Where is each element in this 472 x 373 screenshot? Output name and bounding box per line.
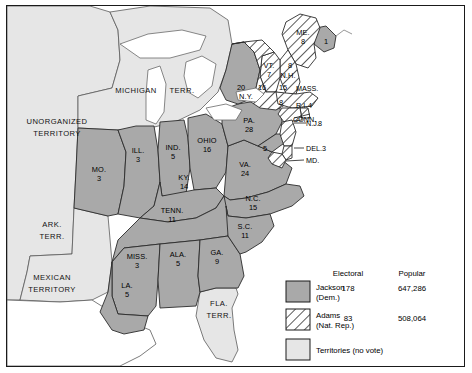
votes-indiana: 5 [171, 152, 175, 161]
coastline-detail [336, 30, 352, 36]
votes-north-carolina: 15 [249, 203, 257, 212]
label-new-hampshire: N.H. [280, 71, 295, 80]
label-indiana: IND. [165, 143, 180, 152]
legend-popular-jackson: 647,286 [398, 284, 426, 293]
label-new-jersey: N.J. [306, 119, 319, 128]
label-illinois: ILL. [132, 146, 145, 155]
label-massachusetts: MASS. [296, 84, 318, 93]
legend-swatch-jackson [286, 281, 310, 302]
label-south-carolina: S.C. [238, 222, 253, 231]
votes-georgia: 9 [215, 257, 219, 266]
votes-rhode-island: 4 [308, 101, 312, 110]
legend: Electoral Popular Jackson (Dem.) 178 647… [286, 269, 427, 360]
label-vermont: VT. [264, 61, 275, 70]
votes-new-york-jackson: 20 [237, 83, 245, 92]
votes-maine-adams: 8 [301, 37, 305, 46]
legend-swatch-adams [286, 309, 310, 330]
votes-new-jersey: 8 [318, 119, 322, 128]
label-michigan-territory-2: TERR. [169, 86, 194, 95]
label-mississippi: MISS. [127, 252, 148, 261]
label-florida-territory-2: TERR. [206, 311, 231, 320]
label-virginia: VA. [239, 160, 251, 169]
votes-pennsylvania: 28 [245, 125, 253, 134]
label-mexican-territory-1: MEXICAN [33, 273, 71, 282]
label-tennessee: TENN. [161, 206, 184, 215]
legend-label-jackson-1: Jackson [316, 283, 345, 292]
votes-missouri: 3 [97, 174, 101, 183]
votes-mississippi: 3 [135, 261, 139, 270]
votes-alabama: 5 [176, 259, 180, 268]
legend-label-adams-1: Adams [316, 311, 340, 320]
legend-header-popular: Popular [399, 269, 426, 278]
label-rhode-island-line: R.I. [296, 101, 307, 110]
votes-tennessee: 11 [168, 215, 176, 224]
label-ohio: OHIO [197, 136, 216, 145]
votes-massachusetts: 15 [279, 83, 287, 92]
votes-maryland: 5 [263, 144, 267, 153]
map-canvas: MO. 3 ILL. 3 IND. 5 OHIO 16 KY. 14 TENN.… [0, 0, 472, 373]
votes-ohio: 16 [203, 145, 211, 154]
votes-maine-jackson: 1 [324, 37, 328, 46]
label-north-carolina: N.C. [245, 194, 260, 203]
votes-new-york-adams: 16 [258, 83, 266, 92]
label-mexican-territory-2: TERRITORY [28, 285, 76, 294]
legend-popular-adams: 508,064 [398, 314, 427, 323]
votes-louisiana: 5 [125, 290, 129, 299]
label-arkansas-territory-1: ARK. [42, 220, 62, 229]
label-delaware: DEL. [306, 144, 322, 153]
electoral-map-figure: MO. 3 ILL. 3 IND. 5 OHIO 16 KY. 14 TENN.… [0, 0, 472, 373]
label-kentucky: KY. [178, 173, 189, 182]
label-arkansas-territory-2: TERR. [39, 232, 64, 241]
votes-connecticut-marker: 8 [279, 98, 283, 107]
legend-electoral-adams: 83 [344, 314, 353, 323]
label-maryland: MD. [306, 156, 319, 165]
label-new-hampshire-votes-top: 8 [288, 61, 292, 70]
votes-illinois: 3 [136, 155, 140, 164]
label-maine: ME. [296, 28, 309, 37]
label-unorganized-territory-2: TERRITORY [33, 129, 81, 138]
label-new-york: N.Y. [239, 92, 253, 101]
legend-electoral-jackson: 178 [341, 284, 354, 293]
legend-swatch-territories [286, 339, 310, 360]
votes-vermont: 7 [267, 70, 271, 79]
label-florida-territory-1: FLA. [210, 299, 228, 308]
legend-header-electoral: Electoral [333, 269, 364, 278]
votes-kentucky: 14 [180, 182, 188, 191]
votes-virginia: 24 [241, 169, 249, 178]
label-georgia: GA. [210, 248, 223, 257]
label-michigan-territory-1: MICHIGAN [115, 86, 157, 95]
label-missouri: MO. [92, 165, 106, 174]
legend-label-territories: Territories (no vote) [316, 346, 384, 355]
legend-label-jackson-2: (Dem.) [316, 293, 340, 302]
label-louisiana: LA. [121, 281, 132, 290]
label-unorganized-territory-1: UNORGANIZED [26, 117, 87, 126]
label-pennsylvania: PA. [243, 116, 255, 125]
votes-south-carolina: 11 [241, 231, 249, 240]
label-alabama: ALA. [170, 250, 186, 259]
votes-delaware: 3 [322, 144, 326, 153]
